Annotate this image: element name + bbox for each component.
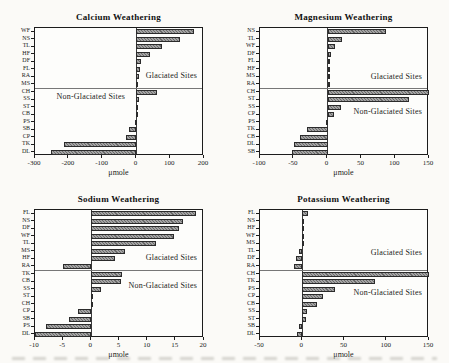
site-label-ss: SS bbox=[2, 95, 30, 102]
site-label-ns: NS bbox=[2, 217, 30, 224]
site-label-fl: FL bbox=[2, 65, 30, 72]
bar-ns bbox=[328, 29, 387, 34]
site-label-ch: CH bbox=[2, 88, 30, 95]
site-label-tk: TK bbox=[227, 277, 255, 284]
bar-st bbox=[136, 105, 138, 110]
bar-df bbox=[91, 226, 178, 231]
x-axis-label: μmole bbox=[259, 168, 428, 177]
bar-ns bbox=[136, 37, 180, 42]
y-tick bbox=[256, 68, 259, 69]
x-tick bbox=[326, 155, 327, 158]
cutoff-caption-smudge bbox=[12, 357, 437, 360]
chart-title: Magnesium Weathering bbox=[259, 12, 428, 22]
site-label-ns: NS bbox=[2, 35, 30, 42]
site-label-df: DF bbox=[227, 50, 255, 57]
bar-ra bbox=[63, 264, 91, 269]
x-tick bbox=[62, 337, 63, 340]
x-tick-label: -200 bbox=[53, 159, 83, 167]
y-tick bbox=[256, 303, 259, 304]
y-tick bbox=[256, 243, 259, 244]
y-tick bbox=[256, 114, 259, 115]
x-tick-label: -10 bbox=[19, 341, 49, 349]
y-tick bbox=[256, 46, 259, 47]
site-label-cp: CP bbox=[2, 133, 30, 140]
x-tick bbox=[394, 155, 395, 158]
x-tick bbox=[169, 155, 170, 158]
site-label-st: ST bbox=[2, 103, 30, 110]
site-label-sb: SB bbox=[227, 322, 255, 329]
y-tick bbox=[31, 281, 34, 282]
y-tick bbox=[31, 83, 34, 84]
site-label-fl: FL bbox=[227, 57, 255, 64]
site-label-df: DF bbox=[227, 254, 255, 261]
site-label-cp: CP bbox=[227, 292, 255, 299]
x-tick bbox=[118, 337, 119, 340]
site-label-sb: SB bbox=[227, 148, 255, 155]
bar-df bbox=[136, 59, 141, 64]
y-tick bbox=[31, 213, 34, 214]
site-label-hf: HF bbox=[227, 65, 255, 72]
bar-df bbox=[328, 52, 331, 57]
y-tick bbox=[31, 114, 34, 115]
bar-ms bbox=[328, 74, 330, 79]
x-tick-label: 20 bbox=[188, 341, 218, 349]
y-tick bbox=[31, 144, 34, 145]
x-tick-label: 50 bbox=[345, 159, 375, 167]
site-label-ss: SS bbox=[2, 285, 30, 292]
plot-area: Glaciated SitesNon-Glaciated Sites bbox=[259, 209, 428, 337]
x-tick bbox=[67, 155, 68, 158]
bar-ss bbox=[136, 97, 139, 102]
x-tick bbox=[174, 337, 175, 340]
bar-sb bbox=[292, 150, 327, 155]
site-label-tk: TK bbox=[2, 270, 30, 277]
bar-ch bbox=[136, 90, 156, 95]
x-tick bbox=[360, 155, 361, 158]
x-tick-label: 100 bbox=[154, 159, 184, 167]
x-tick bbox=[135, 155, 136, 158]
bar-wf bbox=[136, 29, 193, 34]
bar-ra bbox=[136, 74, 139, 79]
site-label-st: ST bbox=[227, 315, 255, 322]
bar-tl bbox=[136, 44, 162, 49]
bar-ns bbox=[91, 219, 182, 224]
site-label-cb: CB bbox=[227, 133, 255, 140]
bar-fl bbox=[328, 59, 331, 64]
y-tick bbox=[31, 326, 34, 327]
site-label-fl: FL bbox=[2, 209, 30, 216]
section-label: Non-Glaciated Sites bbox=[354, 288, 422, 297]
y-tick bbox=[31, 46, 34, 47]
y-tick bbox=[31, 311, 34, 312]
x-tick bbox=[34, 155, 35, 158]
y-tick bbox=[256, 250, 259, 251]
site-label-hf: HF bbox=[227, 224, 255, 231]
site-label-df: DF bbox=[2, 224, 30, 231]
bar-cb bbox=[300, 135, 328, 140]
bar-sb bbox=[299, 324, 302, 329]
y-tick bbox=[256, 144, 259, 145]
site-label-cp: CP bbox=[2, 307, 30, 314]
site-label-df: DF bbox=[2, 57, 30, 64]
x-tick bbox=[259, 337, 260, 340]
site-label-dl: DL bbox=[227, 330, 255, 337]
site-label-ms: MS bbox=[2, 247, 30, 254]
y-tick bbox=[31, 129, 34, 130]
x-tick-label: 100 bbox=[371, 341, 401, 349]
site-label-wf: WF bbox=[2, 27, 30, 34]
x-tick-label: 100 bbox=[379, 159, 409, 167]
bar-dl bbox=[35, 332, 91, 337]
bar-ms bbox=[91, 249, 124, 254]
x-tick-label: 0 bbox=[286, 341, 316, 349]
y-tick bbox=[31, 265, 34, 266]
bar-ss bbox=[91, 287, 101, 292]
y-tick bbox=[31, 243, 34, 244]
site-label-ss: SS bbox=[227, 307, 255, 314]
y-tick bbox=[256, 318, 259, 319]
site-label-tk: TK bbox=[2, 140, 30, 147]
x-tick-label: 50 bbox=[329, 341, 359, 349]
chart-title: Potassium Weathering bbox=[259, 194, 428, 204]
site-label-wf: WF bbox=[2, 232, 30, 239]
y-tick bbox=[256, 213, 259, 214]
y-tick bbox=[31, 303, 34, 304]
bar-ch bbox=[302, 272, 429, 277]
bar-tk bbox=[302, 279, 375, 284]
